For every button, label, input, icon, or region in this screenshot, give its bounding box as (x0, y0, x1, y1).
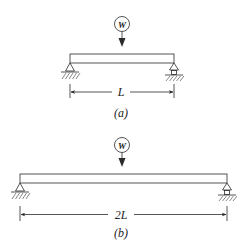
load-arrow-icon (119, 38, 126, 47)
span-label-a: L (117, 85, 125, 99)
caption-b: (b) (114, 226, 128, 240)
roller-support-a (165, 63, 184, 81)
panel-b: W (11, 138, 237, 241)
dimension-a: L (70, 84, 174, 99)
roller-support-b (218, 183, 237, 201)
load-label-a: W (118, 20, 127, 30)
beam-diagram: W (0, 0, 249, 246)
point-load-a: W (115, 17, 130, 48)
dimension-b: 2L (20, 206, 227, 222)
pin-support-b (11, 183, 30, 199)
pin-support-a (61, 63, 80, 79)
caption-a: (a) (114, 106, 128, 120)
beam-b (20, 174, 227, 183)
load-arrow-icon (119, 158, 126, 167)
point-load-b: W (115, 138, 130, 168)
load-label-b: W (118, 141, 127, 151)
span-label-b: 2L (115, 208, 128, 222)
beam-a (70, 54, 174, 63)
panel-a: W (61, 17, 184, 121)
